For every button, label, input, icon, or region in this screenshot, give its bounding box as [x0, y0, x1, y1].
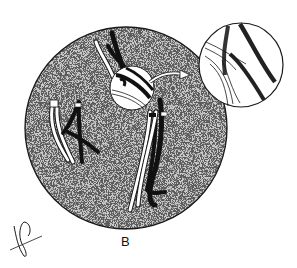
- inset-circle: [199, 23, 283, 107]
- panel-label: B: [121, 234, 130, 249]
- cell-diagram: [0, 0, 297, 268]
- signature: [10, 222, 42, 256]
- magnifier-circle: [110, 66, 154, 110]
